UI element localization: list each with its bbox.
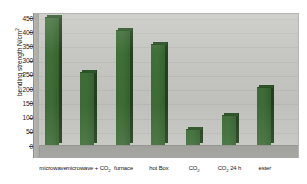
bar-side-face	[236, 113, 239, 143]
bar	[151, 45, 168, 146]
bar-side-face	[271, 85, 274, 143]
bar-front-face	[45, 17, 59, 146]
bar-front-face	[80, 72, 94, 146]
y-tick-mark	[29, 89, 33, 90]
y-axis-title-text: bending strength N/cm	[16, 31, 23, 96]
x-axis-label: ester	[235, 165, 295, 172]
plot-area	[33, 13, 299, 158]
y-tick-mark	[29, 32, 33, 33]
y-tick-mark	[29, 146, 33, 147]
y-axis-title-exponent: 2	[15, 28, 20, 31]
y-tick-mark	[29, 118, 33, 119]
bar	[222, 116, 239, 146]
gridline	[37, 33, 298, 34]
bar	[186, 130, 203, 146]
y-tick-mark	[29, 75, 33, 76]
y-tick-mark	[29, 103, 33, 104]
y-tick-mark	[29, 46, 33, 47]
bar	[80, 73, 97, 146]
bar-front-face	[151, 44, 165, 146]
bar-side-face	[130, 28, 133, 143]
bar-front-face	[222, 115, 236, 146]
y-tick-mark	[29, 132, 33, 133]
plot-floor	[33, 145, 298, 158]
bar-front-face	[116, 30, 130, 146]
bar	[45, 18, 62, 146]
bar	[257, 88, 274, 146]
bar-front-face	[186, 129, 200, 146]
y-tick-mark	[29, 61, 33, 62]
gridline	[37, 19, 298, 20]
y-tick-mark	[29, 18, 33, 19]
bar-side-face	[94, 70, 97, 143]
bar	[116, 31, 133, 146]
bar-front-face	[257, 87, 271, 146]
bending-strength-bar-chart: 450400350300250200150100500 bending stre…	[0, 0, 307, 184]
y-axis-wall	[33, 13, 39, 158]
y-axis-title: bending strength N/cm2	[15, 2, 23, 122]
bar-side-face	[165, 42, 168, 143]
bar-side-face	[59, 15, 62, 143]
